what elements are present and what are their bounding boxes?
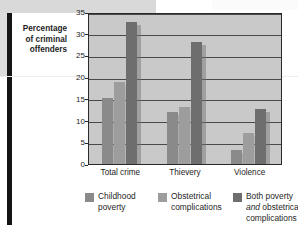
bar-group	[89, 14, 283, 164]
y-axis-title-line-3: offenders	[14, 45, 67, 56]
y-axis-tick-label: 20	[65, 74, 85, 82]
legend-label: Both povertyand obstetricalcomplications	[246, 191, 298, 225]
y-axis-tick-labels: 35302520151050	[62, 13, 85, 165]
legend-label: Childhoodpoverty	[98, 191, 160, 213]
y-axis-tick-label: 10	[65, 118, 85, 126]
plot-inner	[89, 14, 281, 164]
legend-swatch	[158, 193, 167, 202]
y-axis-tick-mark	[85, 34, 88, 35]
bar[interactable]	[231, 150, 242, 164]
y-axis-tick-mark	[85, 99, 88, 100]
bar-chart-figure: Percentage of criminal offenders 3530252…	[0, 0, 298, 241]
bar[interactable]	[243, 133, 254, 164]
legend-swatch	[233, 193, 242, 202]
y-axis-tick-mark	[85, 165, 88, 166]
y-axis-tick-label: 30	[65, 31, 85, 39]
y-axis-tick-mark	[85, 121, 88, 122]
plot-area	[88, 13, 282, 165]
y-axis-tick-mark	[85, 13, 88, 14]
y-axis-tick-mark	[85, 78, 88, 79]
y-axis-tick-label: 15	[65, 96, 85, 104]
bar[interactable]	[255, 109, 266, 164]
y-axis-title: Percentage of criminal offenders	[14, 24, 67, 56]
legend-label: Obstetricalcomplications	[171, 191, 233, 213]
y-axis-tick-label: 25	[65, 52, 85, 60]
y-axis-title-line-1: Percentage	[14, 24, 67, 35]
x-axis-category-label: Violence	[210, 168, 290, 178]
y-axis-title-line-2: of criminal	[14, 35, 67, 46]
x-axis-category-labels: Total crimeThieveryViolence	[88, 168, 282, 182]
y-axis-tick-label: 5	[65, 139, 85, 147]
bar-shadow	[266, 112, 270, 164]
y-axis-tick-label: 35	[65, 9, 85, 17]
y-axis-tick-mark	[85, 56, 88, 57]
legend-swatch	[85, 193, 94, 202]
y-axis-tick-mark	[85, 143, 88, 144]
chart-legend: ChildhoodpovertyObstetricalcomplications…	[85, 191, 293, 239]
